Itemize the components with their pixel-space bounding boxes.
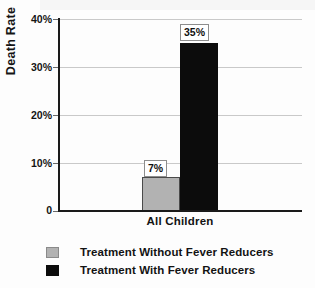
scan-artifact [40,0,315,10]
data-label-35-percent: 35% [180,24,209,41]
legend-label-without-fever-reducers: Treatment Without Fever Reducers [80,246,274,258]
y-tick-label-30: 30% [0,62,52,73]
data-label-7-percent: 7% [144,160,167,177]
gridline-40 [60,19,302,20]
bar-chart: Death Rate 40% 30% 20% 10% 0 7% 35% All … [0,0,315,288]
y-tick-label-10: 10% [0,158,52,169]
y-tick-label-0: 0 [0,205,52,216]
x-axis-line [58,210,302,212]
bar-treatment-without-fever-reducers[interactable] [142,177,180,211]
legend-swatch-icon-gray [46,247,59,258]
x-axis-category-label: All Children [110,214,250,228]
y-tick-label-20: 20% [0,110,52,121]
y-axis-line [58,18,60,212]
bar-treatment-with-fever-reducers[interactable] [180,43,218,211]
y-tick-label-40: 40% [0,14,52,25]
legend-swatch-icon-black [46,265,59,276]
legend: Treatment Without Fever Reducers Treatme… [46,243,306,279]
legend-label-with-fever-reducers: Treatment With Fever Reducers [80,264,255,276]
legend-item-with-fever-reducers[interactable]: Treatment With Fever Reducers [46,261,306,279]
plot-area: 7% 35% [60,19,302,211]
legend-item-without-fever-reducers[interactable]: Treatment Without Fever Reducers [46,243,306,261]
